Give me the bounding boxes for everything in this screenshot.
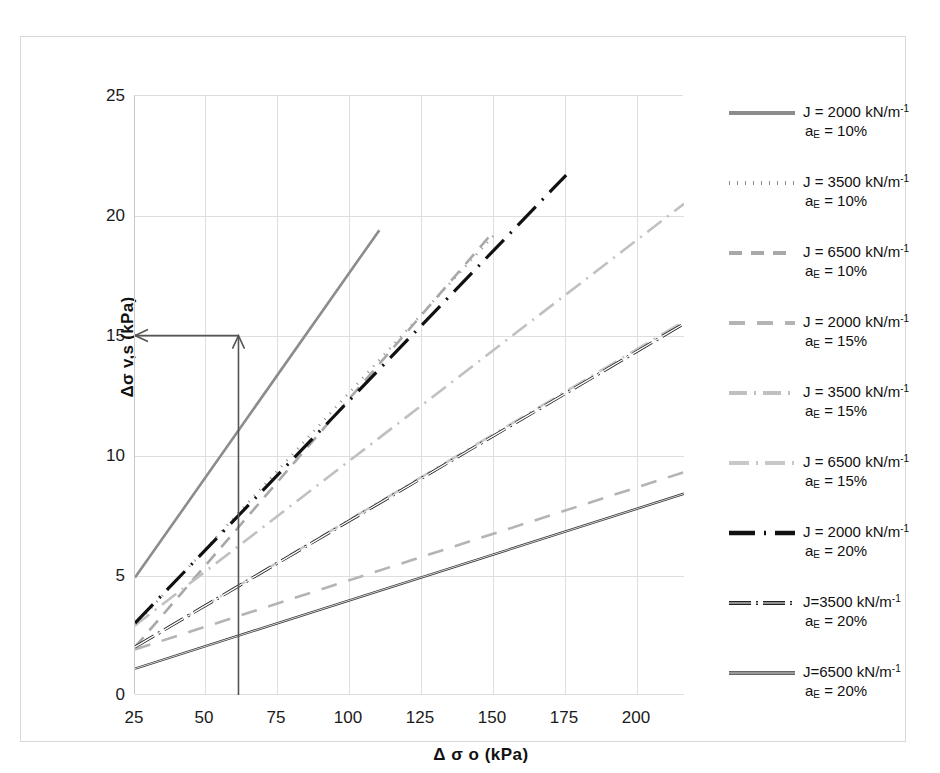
legend-label: J = 6500 kN/m-1 aE = 10% bbox=[803, 239, 929, 284]
legend-swatch-icon bbox=[729, 597, 795, 609]
series-line bbox=[135, 237, 489, 647]
legend-label: J=6500 kN/m-1 aE = 20% bbox=[803, 659, 929, 704]
chart-page: Δσ v,s (kPa) 25 20 15 10 5 0 25 50 75 10… bbox=[0, 0, 940, 773]
legend-item[interactable]: J = 2000 kN/m-1 aE = 10% bbox=[721, 99, 927, 159]
y-tick-label: 20 bbox=[83, 207, 125, 224]
x-axis-title: Δ σ o (kPa) bbox=[351, 745, 611, 765]
legend-item[interactable]: J = 6500 kN/m-1 aE = 10% bbox=[721, 239, 927, 299]
legend-swatch-icon bbox=[729, 667, 795, 679]
y-tick-label: 25 bbox=[83, 87, 125, 104]
legend-label: J = 6500 kN/m-1 aE = 15% bbox=[803, 449, 929, 494]
x-tick-label: 100 bbox=[318, 709, 378, 726]
legend-line1: J = 2000 kN/m-1 bbox=[803, 313, 909, 330]
legend-swatch-icon bbox=[729, 317, 795, 329]
y-tick-label: 15 bbox=[83, 327, 125, 344]
legend-line2: aE = 15% bbox=[803, 472, 867, 489]
y-tick-label: 0 bbox=[83, 686, 125, 703]
legend-swatch-icon bbox=[729, 177, 795, 189]
series-line bbox=[135, 175, 566, 623]
x-tick-label: 200 bbox=[606, 709, 666, 726]
legend-line2: aE = 10% bbox=[803, 192, 867, 209]
legend-label: J = 2000 kN/m-1 aE = 10% bbox=[803, 99, 929, 144]
y-axis-ticks: 25 20 15 10 5 0 bbox=[73, 37, 125, 773]
legend-item[interactable]: J=3500 kN/m-1 aE = 20% bbox=[721, 589, 927, 649]
plot-series-svg bbox=[135, 96, 684, 695]
legend-line2: aE = 15% bbox=[803, 402, 867, 419]
legend-line2: aE = 15% bbox=[803, 332, 867, 349]
legend-line2: aE = 10% bbox=[803, 262, 867, 279]
legend-swatch-icon bbox=[729, 457, 795, 469]
legend-swatch-icon bbox=[729, 387, 795, 399]
legend-line2: aE = 20% bbox=[803, 612, 867, 629]
legend-line1: J = 2000 kN/m-1 bbox=[803, 103, 909, 120]
legend-item[interactable]: J = 2000 kN/m-1 aE = 15% bbox=[721, 309, 927, 369]
legend-label: J = 2000 kN/m-1 aE = 15% bbox=[803, 309, 929, 354]
legend-line1: J = 2000 kN/m-1 bbox=[803, 523, 909, 540]
x-tick-label: 175 bbox=[534, 709, 594, 726]
legend-line1: J = 3500 kN/m-1 bbox=[803, 173, 909, 190]
plot-area bbox=[134, 95, 683, 694]
chart-frame: Δσ v,s (kPa) 25 20 15 10 5 0 25 50 75 10… bbox=[20, 36, 906, 742]
legend-swatch-icon bbox=[729, 107, 795, 119]
x-tick-label: 150 bbox=[462, 709, 522, 726]
legend-line1: J = 3500 kN/m-1 bbox=[803, 383, 909, 400]
legend-line2: aE = 20% bbox=[803, 542, 867, 559]
x-tick-label: 75 bbox=[246, 709, 306, 726]
legend-swatch-icon bbox=[729, 527, 795, 539]
legend-line1: J=6500 kN/m-1 bbox=[803, 663, 901, 680]
legend-item[interactable]: J = 2000 kN/m-1 aE = 20% bbox=[721, 519, 927, 579]
legend-line2: aE = 20% bbox=[803, 682, 867, 699]
y-tick-label: 5 bbox=[83, 567, 125, 584]
legend-line1: J = 6500 kN/m-1 bbox=[803, 453, 909, 470]
legend-label: J = 2000 kN/m-1 aE = 20% bbox=[803, 519, 929, 564]
x-tick-label: 125 bbox=[390, 709, 450, 726]
legend-item[interactable]: J = 3500 kN/m-1 aE = 15% bbox=[721, 379, 927, 439]
legend-line1: J = 6500 kN/m-1 bbox=[803, 243, 909, 260]
series-line bbox=[135, 494, 684, 669]
y-axis-title-wrap: Δσ v,s (kPa) bbox=[21, 37, 81, 773]
legend-item[interactable]: J=6500 kN/m-1 aE = 20% bbox=[721, 659, 927, 719]
x-tick-label: 50 bbox=[174, 709, 234, 726]
y-tick-label: 10 bbox=[83, 447, 125, 464]
legend-line1: J=3500 kN/m-1 bbox=[803, 593, 901, 610]
legend-swatch-icon bbox=[729, 247, 795, 259]
series-line bbox=[135, 324, 684, 647]
legend-line2: aE = 10% bbox=[803, 122, 867, 139]
x-tick-label: 25 bbox=[104, 709, 164, 726]
legend-item[interactable]: J = 6500 kN/m-1 aE = 15% bbox=[721, 449, 927, 509]
legend-label: J = 3500 kN/m-1 aE = 10% bbox=[803, 169, 929, 214]
legend-label: J = 3500 kN/m-1 aE = 15% bbox=[803, 379, 929, 424]
legend-label: J=3500 kN/m-1 aE = 20% bbox=[803, 589, 929, 634]
series-line bbox=[135, 204, 684, 626]
legend-item[interactable]: J = 3500 kN/m-1 aE = 10% bbox=[721, 169, 927, 229]
